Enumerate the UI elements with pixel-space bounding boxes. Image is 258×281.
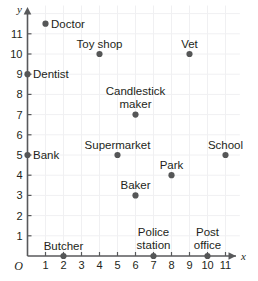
x-axis-tick-label: 6 — [132, 259, 138, 271]
data-point-post-office[interactable] — [204, 253, 210, 259]
x-axis-tick-label: 2 — [60, 259, 66, 271]
x-axis-tick-label: 9 — [186, 259, 192, 271]
y-axis-tick-label: 3 — [16, 189, 22, 201]
x-axis-tick-label: 5 — [114, 259, 120, 271]
data-point-park[interactable] — [168, 172, 174, 178]
y-axis-arrow-icon — [24, 7, 32, 15]
point-label-doctor: Doctor — [51, 18, 85, 30]
data-point-vet[interactable] — [186, 51, 192, 57]
point-label-police-station-line1: Police — [138, 226, 169, 238]
y-axis-tick-label: 10 — [10, 48, 22, 60]
point-label-vet: Vet — [181, 38, 198, 50]
point-label-candlestick-maker-line2: maker — [120, 98, 152, 110]
data-point-candlestick-maker[interactable] — [132, 112, 138, 118]
point-label-baker: Baker — [120, 179, 150, 191]
data-point-butcher[interactable] — [60, 253, 66, 259]
data-point-bank[interactable] — [24, 152, 30, 158]
point-label-post-office-line1: Post — [196, 226, 220, 238]
x-axis-tick-label: 1 — [42, 259, 48, 271]
data-point-supermarket[interactable] — [114, 152, 120, 158]
point-label-police-station-line2: station — [137, 239, 171, 251]
x-axis-tick-label: 3 — [78, 259, 84, 271]
y-axis-tick-label: 6 — [16, 129, 22, 141]
point-label-butcher: Butcher — [44, 240, 84, 252]
y-axis-name: y — [16, 3, 22, 15]
point-label-dentist: Dentist — [33, 68, 70, 80]
coordinate-grid-chart: 12345678910111234567891011OxyDoctorToy s… — [0, 0, 258, 281]
y-axis-tick-label: 5 — [16, 149, 22, 161]
point-label-post-office-line2: office — [194, 239, 221, 251]
data-point-doctor[interactable] — [42, 21, 48, 27]
y-axis-tick-label: 4 — [16, 169, 22, 181]
point-label-supermarket: Supermarket — [85, 139, 152, 151]
data-point-police-station[interactable] — [150, 253, 156, 259]
y-axis-tick-label: 2 — [16, 210, 22, 222]
origin-label: O — [14, 259, 23, 273]
y-axis-tick-label: 11 — [11, 28, 22, 40]
point-label-school: School — [208, 139, 243, 151]
x-axis-tick-label: 8 — [168, 259, 174, 271]
x-axis-tick-label: 11 — [220, 259, 231, 271]
y-axis-tick-label: 1 — [16, 230, 22, 242]
y-axis-tick-label: 7 — [16, 109, 22, 121]
data-point-school[interactable] — [222, 152, 228, 158]
y-axis-tick-label: 8 — [16, 88, 22, 100]
x-axis-name: x — [240, 250, 246, 262]
point-label-toy-shop: Toy shop — [76, 38, 122, 50]
x-axis-tick-label: 7 — [150, 259, 156, 271]
scatter-plot-figure: 12345678910111234567891011OxyDoctorToy s… — [0, 0, 258, 281]
point-label-park: Park — [160, 159, 184, 171]
y-axis-tick-label: 9 — [16, 68, 22, 80]
point-label-candlestick-maker-line1: Candlestick — [106, 85, 166, 97]
data-point-dentist[interactable] — [24, 71, 30, 77]
x-axis-tick-label: 4 — [96, 259, 102, 271]
point-label-bank: Bank — [33, 149, 59, 161]
data-point-baker[interactable] — [132, 192, 138, 198]
data-point-toy-shop[interactable] — [96, 51, 102, 57]
x-axis-tick-label: 10 — [201, 259, 213, 271]
